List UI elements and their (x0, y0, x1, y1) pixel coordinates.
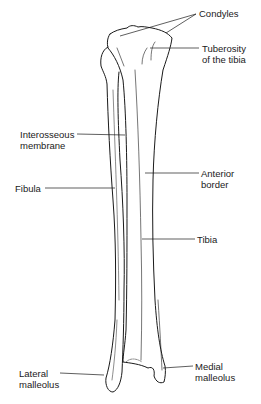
label-anterior-border: Anterior border (201, 168, 234, 190)
label-condyles: Condyles (199, 8, 239, 19)
label-fibula: Fibula (15, 183, 41, 194)
label-medial-malleolus: Medial malleolus (195, 361, 235, 383)
leg-bones-diagram: Condyles Tuberosity of the tibia Interos… (0, 0, 261, 404)
tibia-bone (107, 26, 172, 383)
leader-medial-malleolus (163, 366, 193, 368)
leader-condyles-1 (120, 14, 196, 36)
leader-interosseous (77, 134, 125, 135)
leader-lateral-malleolus (60, 373, 104, 375)
label-tuberosity-of-tibia: Tuberosity of the tibia (202, 43, 246, 65)
label-lateral-malleolus: Lateral malleolus (19, 368, 59, 390)
fibula-bone (101, 47, 125, 392)
label-tibia: Tibia (197, 234, 217, 245)
leader-condyles-2 (166, 14, 196, 33)
label-interosseous-membrane: Interosseous membrane (20, 129, 74, 151)
